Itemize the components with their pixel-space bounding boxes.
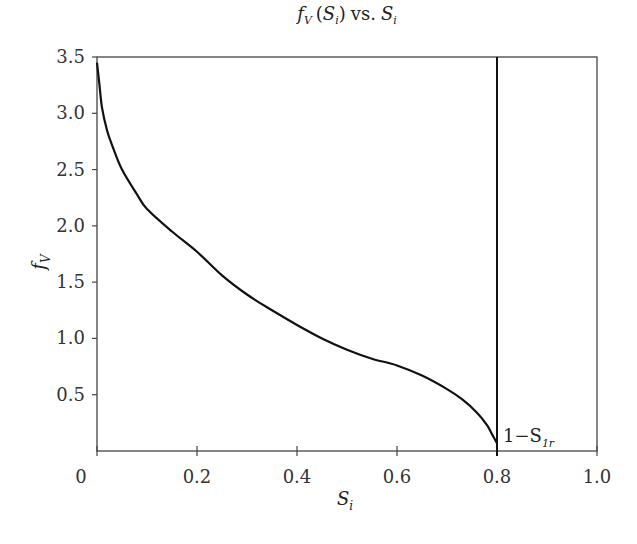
- x-tick-label: 0.2: [183, 466, 212, 487]
- y-tick-label: 1.5: [56, 271, 85, 292]
- chart: fV(Si)vs.Si 00.20.40.60.81.00.51.01.52.0…: [0, 0, 637, 544]
- y-tick-label: 1.0: [56, 327, 85, 348]
- x-tick-label: 0.6: [383, 466, 412, 487]
- y-tick-label: 0.5: [56, 384, 85, 405]
- chart-title: fV(Si)vs.Si: [295, 3, 397, 27]
- x-tick-label: 1.0: [583, 466, 612, 487]
- x-tick-label: 0.8: [483, 466, 512, 487]
- y-tick-label: 3.5: [56, 46, 85, 67]
- plot-frame: [97, 57, 597, 451]
- x-axis-label: Si: [337, 488, 353, 513]
- y-axis-label: fV: [28, 253, 53, 272]
- axes: 00.20.40.60.81.00.51.01.52.02.53.03.5: [56, 46, 611, 487]
- fv-curve: [97, 63, 497, 443]
- y-tick-label: 2.5: [56, 159, 85, 180]
- x-tick-label: 0.4: [283, 466, 312, 487]
- x-tick-label: 0: [75, 466, 86, 487]
- series-layer: [97, 63, 497, 443]
- y-tick-label: 3.0: [56, 102, 85, 123]
- residual-saturation-label: 1−S1r: [503, 425, 555, 450]
- y-tick-label: 2.0: [56, 215, 85, 236]
